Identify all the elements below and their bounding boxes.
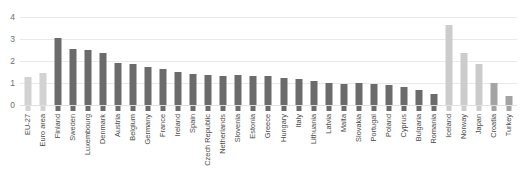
x-axis-category-label-text: Croatia: [491, 114, 498, 138]
x-axis-category-label: Poland: [385, 91, 392, 114]
x-axis-category-label-text: France: [159, 114, 166, 137]
bar-slot: [336, 8, 351, 105]
x-axis-category-label-text: Cyprus: [400, 114, 407, 137]
y-axis-tick-label: 4: [10, 13, 15, 22]
x-axis-category-label: Iceland: [446, 90, 453, 114]
x-axis-category-label: Bulgaria: [415, 87, 422, 114]
x-axis-category-label: Estonia: [250, 89, 257, 114]
x-axis-label-slot: Denmark: [95, 106, 110, 176]
y-axis-tick-label: 1: [10, 79, 15, 88]
x-axis-category-label-text: Denmark: [99, 114, 106, 144]
x-axis-label-slot: Italy: [291, 106, 306, 176]
x-axis-category-label-text: Estonia: [250, 114, 257, 139]
x-axis-category-label-text: EU-27: [24, 114, 31, 135]
x-axis-label-slot: Romania: [427, 106, 442, 176]
x-axis-category-label-text: Romania: [430, 114, 437, 144]
x-axis-category-label-text: Germany: [144, 114, 151, 144]
x-axis-category-label: Romania: [430, 84, 437, 114]
bar-slot: [502, 8, 517, 105]
x-axis-label-slot: Croatia: [487, 106, 502, 176]
x-axis-category-label-text: Poland: [385, 114, 392, 137]
x-axis-label-slot: Malta: [336, 106, 351, 176]
x-axis-label-slot: EU-27: [20, 106, 35, 176]
x-axis-label-slot: Germany: [140, 106, 155, 176]
bar-slot: [186, 8, 201, 105]
x-axis-label-slot: Slovenia: [231, 106, 246, 176]
x-axis-category-label-text: Sweden: [69, 114, 76, 141]
x-axis-category-label: Portugal: [370, 86, 377, 114]
x-axis-category-label-text: Italy: [295, 114, 302, 128]
x-axis-category-label: Cyprus: [400, 91, 407, 114]
x-axis-category-label: Lithuania: [310, 84, 317, 114]
x-axis-category-label: Ireland: [174, 91, 181, 114]
x-axis-label-slot: Sweden: [65, 106, 80, 176]
x-axis-label-slot: Austria: [110, 106, 125, 176]
x-axis-category-label: Czech Republic: [205, 62, 212, 114]
x-axis-category-label-text: Euro area: [39, 114, 46, 146]
x-axis-label-slot: Poland: [381, 106, 396, 176]
x-axis-label-slot: Latvia: [321, 106, 336, 176]
x-axis-category-labels: EU-27Euro areaFinlandSwedenLuxembourgDen…: [20, 106, 517, 176]
x-axis-category-label: Spain: [189, 95, 196, 114]
x-axis-category-label: Japan: [476, 94, 483, 114]
x-axis-category-label: Italy: [295, 100, 302, 114]
x-axis-label-slot: Euro area: [35, 106, 50, 176]
x-axis-category-label: Sweden: [69, 87, 76, 114]
x-axis-label-slot: Cyprus: [397, 106, 412, 176]
x-axis-category-label: Luxembourg: [84, 73, 91, 114]
x-axis-category-label-text: Norway: [461, 114, 468, 139]
x-axis-category-label-text: Latvia: [325, 114, 332, 134]
x-axis-category-label-text: Turkey: [506, 114, 513, 136]
y-axis-tick-label: 0: [10, 101, 15, 110]
x-axis-category-label: Austria: [114, 91, 121, 114]
x-axis-category-label-text: Slovenia: [235, 114, 242, 142]
x-axis-label-slot: Estonia: [246, 106, 261, 176]
x-axis-category-label-text: Greece: [265, 114, 272, 138]
x-axis-category-label: Belgium: [129, 87, 136, 114]
x-axis-label-slot: Lithuania: [306, 106, 321, 176]
x-axis-category-label: Turkey: [506, 92, 513, 114]
x-axis-label-slot: Belgium: [125, 106, 140, 176]
x-axis-label-slot: Spain: [186, 106, 201, 176]
x-axis-category-label-text: Malta: [340, 114, 347, 132]
bar-chart: 01234 EU-27Euro areaFinlandSwedenLuxembo…: [0, 0, 521, 176]
x-axis-category-label: Euro area: [39, 82, 46, 114]
x-axis-category-label-text: Hungary: [280, 114, 287, 142]
x-axis-category-label: Greece: [265, 90, 272, 114]
x-axis-label-slot: Czech Republic: [201, 106, 216, 176]
x-axis-category-label: EU-27: [24, 93, 31, 114]
x-axis-label-slot: Ireland: [171, 106, 186, 176]
y-axis-tick-label: 2: [10, 57, 15, 66]
x-axis-label-slot: Luxembourg: [80, 106, 95, 176]
x-axis-label-slot: Finland: [50, 106, 65, 176]
x-axis-category-label: Malta: [340, 96, 347, 114]
x-axis-label-slot: Slovakia: [351, 106, 366, 176]
x-axis-category-label: Croatia: [491, 90, 498, 114]
x-axis-category-label-text: Spain: [189, 114, 196, 133]
x-axis-category-label-text: Austria: [114, 114, 121, 137]
x-axis-category-label-text: Finland: [54, 114, 61, 138]
x-axis-category-label-text: Iceland: [446, 114, 453, 138]
bar-slot: [472, 8, 487, 105]
x-axis-category-label: France: [159, 91, 166, 114]
x-axis-label-slot: Netherlands: [216, 106, 231, 176]
x-axis-label-slot: Hungary: [276, 106, 291, 176]
x-axis-category-label-text: Netherlands: [220, 114, 227, 154]
x-axis-label-slot: Japan: [472, 106, 487, 176]
x-axis-label-slot: France: [156, 106, 171, 176]
x-axis-category-label-text: Luxembourg: [84, 114, 91, 155]
x-axis-category-label: Slovakia: [355, 86, 362, 114]
x-axis-category-label-text: Japan: [476, 114, 483, 134]
x-axis-category-label: Norway: [461, 89, 468, 114]
x-axis-category-label-text: Bulgaria: [415, 114, 422, 141]
x-axis-category-label-text: Lithuania: [310, 114, 317, 144]
x-axis-category-label: Netherlands: [220, 74, 227, 114]
x-axis-category-label: Germany: [144, 84, 151, 114]
x-axis-label-slot: Turkey: [502, 106, 517, 176]
x-axis-label-slot: Iceland: [442, 106, 457, 176]
x-axis-label-slot: Norway: [457, 106, 472, 176]
x-axis-category-label: Denmark: [99, 84, 106, 114]
bar-slot: [291, 8, 306, 105]
x-axis-category-label: Latvia: [325, 94, 332, 114]
x-axis-category-label-text: Czech Republic: [205, 114, 212, 166]
